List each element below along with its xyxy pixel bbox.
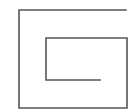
spiral-diagram xyxy=(0,0,134,111)
spiral-path xyxy=(19,10,127,108)
diagram-canvas xyxy=(0,0,134,111)
